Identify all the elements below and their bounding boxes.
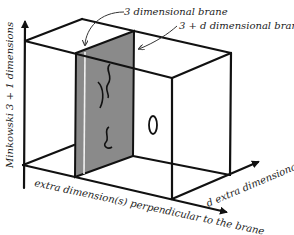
label-three-plus-d-brane: 3 + d dimensional brane bbox=[179, 20, 294, 31]
label-perpendicular-axis: extra dimension(s) perpendicular to the … bbox=[34, 177, 266, 235]
top-right-depth-edge bbox=[172, 53, 231, 78]
three-dim-brane-line bbox=[84, 52, 85, 174]
minkowski-axis-arrow bbox=[24, 22, 25, 188]
bottom-front-left-edge bbox=[23, 165, 75, 177]
back-right-vertical-edge bbox=[230, 53, 231, 175]
brane-diagram: 3 dimensional brane 3 + d dimensional br… bbox=[0, 0, 294, 235]
closed-string-loop bbox=[149, 116, 157, 134]
top-left-depth-edge bbox=[25, 19, 82, 41]
diagram-svg: 3 dimensional brane 3 + d dimensional br… bbox=[0, 0, 294, 235]
top-back-right-edge bbox=[134, 31, 231, 53]
label-minkowski-axis: Minkowski 3 + 1 dimensions bbox=[4, 22, 15, 169]
brane-slab bbox=[75, 31, 134, 177]
bottom-back-right-edge bbox=[133, 156, 230, 175]
bottom-left-depth-edge bbox=[23, 145, 74, 165]
label-three-dim-brane: 3 dimensional brane bbox=[124, 6, 228, 17]
